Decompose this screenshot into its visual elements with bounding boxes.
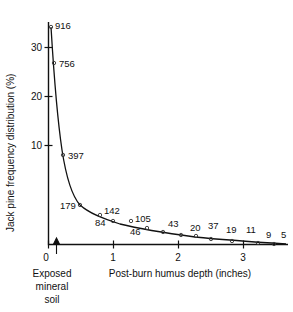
point-label: 84 xyxy=(95,217,106,228)
data-curve xyxy=(51,27,286,244)
point-label: 916 xyxy=(55,20,71,31)
y-axis-title: Jack pine frequency distribution (%) xyxy=(5,74,16,232)
exposed-soil-note-line1: Exposed xyxy=(33,268,72,279)
point-label: 43 xyxy=(168,218,179,229)
exposed-soil-note-line3: soil xyxy=(44,294,59,305)
chart-svg: 30 20 10 0 1 2 3 916 756 397 179 142 84 … xyxy=(0,0,293,312)
point-label: 11 xyxy=(246,224,256,235)
y-tick-label-10: 10 xyxy=(31,140,43,151)
x-axis-title: Post-burn humus depth (inches) xyxy=(109,268,251,279)
chart-container: 30 20 10 0 1 2 3 916 756 397 179 142 84 … xyxy=(0,0,293,312)
y-tick-label-20: 20 xyxy=(31,91,43,102)
x-tick-label-1: 1 xyxy=(110,252,116,263)
point-label: 756 xyxy=(59,58,75,69)
chart-axes xyxy=(49,22,289,245)
exposed-soil-arrow-icon xyxy=(54,238,60,254)
point-label: 179 xyxy=(60,200,76,211)
x-tick-label-0: 0 xyxy=(43,252,49,263)
point-label: 105 xyxy=(135,213,151,224)
x-tick-label-3: 3 xyxy=(240,252,246,263)
point-label: 9 xyxy=(266,229,271,240)
point-label: 20 xyxy=(190,222,201,233)
point-label: 397 xyxy=(68,150,84,161)
y-tick-label-30: 30 xyxy=(31,42,43,53)
data-point-marker xyxy=(129,219,132,222)
point-label: 19 xyxy=(226,224,237,235)
exposed-soil-note-line2: mineral xyxy=(36,281,69,292)
point-label: 142 xyxy=(104,205,120,216)
point-label: 46 xyxy=(130,226,141,237)
x-tick-label-2: 2 xyxy=(175,252,181,263)
point-label: 37 xyxy=(208,220,219,231)
point-label: 5 xyxy=(281,229,286,240)
